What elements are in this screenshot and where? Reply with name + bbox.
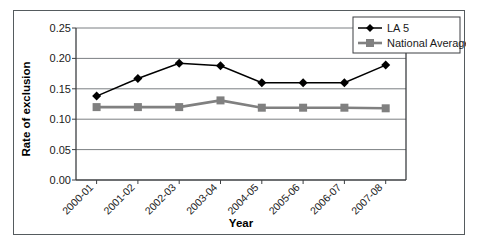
series-markers-la-5 [92, 59, 390, 101]
y-tick-label-0.25: 0.25 [50, 22, 71, 34]
y-axis-title: Rate of exclusion [20, 61, 32, 156]
y-tick-label-0.20: 0.20 [50, 52, 71, 64]
y-tick-label-0.10: 0.10 [50, 113, 71, 125]
x-tick-label-2: 2002-03 [142, 181, 178, 217]
x-tick-label-0: 2000-01 [60, 181, 96, 217]
x-tick-label-3: 2003-04 [184, 181, 220, 217]
y-tick-label-0.00: 0.00 [50, 174, 71, 186]
legend-marker-square-icon [366, 39, 374, 47]
line-chart: Rate of exclusion 0.25 0.20 0.15 0.10 0.… [14, 11, 466, 236]
legend-label-la-5: LA 5 [387, 22, 409, 34]
x-axis-title: Year [229, 217, 254, 229]
chart-legend[interactable]: LA 5 National Average [353, 17, 466, 53]
x-tick-label-6: 2006-07 [307, 181, 343, 217]
x-tick-labels: 2000-01 2001-02 2002-03 2003-04 2004-05 … [60, 181, 385, 217]
y-tick-label-0.15: 0.15 [50, 83, 71, 95]
x-tick-label-4: 2004-05 [225, 181, 261, 217]
chart-frame: Rate of exclusion 0.25 0.20 0.15 0.10 0.… [13, 10, 465, 235]
x-tick-label-5: 2005-06 [266, 181, 302, 217]
legend-label-national-average: National Average [387, 37, 466, 49]
y-tick-label-0.05: 0.05 [50, 144, 71, 156]
x-tick-label-1: 2001-02 [101, 181, 137, 217]
x-tick-label-7: 2007-08 [349, 181, 385, 217]
